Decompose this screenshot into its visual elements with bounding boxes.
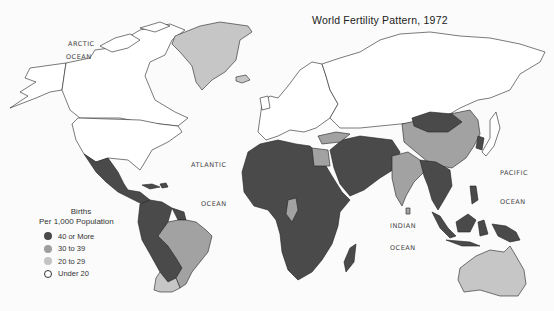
region-british-isles (260, 96, 270, 110)
region-indonesia (432, 212, 488, 246)
pacific-ocean-label-1: PACIFIC (500, 169, 528, 177)
region-middle-east (330, 136, 400, 196)
swatch-mid-icon (44, 245, 52, 253)
region-guianas (172, 208, 186, 220)
region-alaska (10, 63, 66, 108)
map-legend: Births Per 1,000 Population 40 or More 3… (40, 206, 150, 280)
legend-label: 40 or More (58, 232, 94, 241)
legend-title-line1: Births (40, 206, 122, 217)
region-australia (458, 246, 526, 296)
map-figure: World Fertility Pattern, 1972 ARCTIC OCE… (0, 0, 554, 311)
legend-item-under-20: Under 20 (44, 268, 150, 281)
legend-item-20-to-29: 20 to 29 (44, 255, 150, 268)
map-title: World Fertility Pattern, 1972 (312, 14, 448, 26)
swatch-light-icon (44, 257, 52, 265)
indian-ocean-label-1: INDIAN (390, 222, 416, 230)
legend-label: Under 20 (58, 269, 89, 278)
atlantic-ocean-label-1: ATLANTIC (191, 161, 226, 169)
legend-label: 20 to 29 (58, 257, 85, 266)
region-new-guinea (492, 224, 520, 242)
arctic-ocean-label-1: ARCTIC (68, 40, 95, 48)
swatch-empty-icon (44, 270, 52, 278)
atlantic-ocean-label-2: OCEAN (201, 200, 227, 208)
indian-ocean-label-2: OCEAN (390, 244, 416, 252)
swatch-dark-icon (44, 232, 52, 240)
region-egypt (312, 148, 330, 166)
region-madagascar (344, 244, 356, 272)
legend-label: 30 to 39 (58, 244, 85, 253)
region-caribbean (142, 183, 168, 189)
legend-item-30-to-39: 30 to 39 (44, 243, 150, 256)
legend-item-40-or-more: 40 or More (44, 230, 150, 243)
arctic-ocean-label-2: OCEAN (66, 53, 92, 61)
legend-title-line2: Per 1,000 Population (39, 217, 150, 226)
region-iceland (236, 75, 250, 83)
region-japan (482, 112, 500, 156)
pacific-ocean-label-2: OCEAN (500, 198, 526, 206)
region-sri-lanka (406, 208, 410, 214)
region-philippines (470, 186, 478, 204)
region-united-states (72, 118, 182, 170)
